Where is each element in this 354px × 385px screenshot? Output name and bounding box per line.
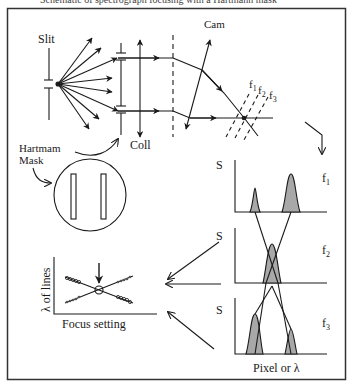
panel-f2 (235, 228, 327, 283)
slit (44, 48, 53, 120)
panel-label-f1: f1 (322, 171, 330, 187)
signal-axis-label-f2: S (216, 229, 223, 243)
hartmann-label-line2: Mask (19, 154, 44, 166)
mask-hole-right (101, 174, 106, 219)
panel-label-f2: f2 (322, 243, 330, 259)
focus-plot-ylabel: λ of lines (39, 267, 53, 312)
panel-label-f3: f3 (322, 316, 330, 332)
focus-plot-xlabel: Focus setting (62, 317, 126, 331)
optics-schematic (44, 35, 322, 154)
focus-plot (54, 257, 157, 314)
x-axis-label: Pixel or λ (253, 361, 300, 375)
coll-label: Coll (130, 138, 151, 152)
cam-label: Cam (204, 18, 225, 30)
signal-axis-label-f3: S (216, 303, 223, 317)
ray-fan (58, 38, 118, 129)
mask-hole-left (71, 174, 76, 219)
panel-to-plot-arrows (166, 242, 221, 349)
spectrograph-diagram: Slit Cam Coll f1 f2 f3 Hartmam Mask (0, 0, 354, 385)
f2-plane-label: f2 (258, 84, 266, 99)
f3-plane-label: f3 (269, 89, 277, 104)
signal-axis-label-f1: S (216, 158, 223, 172)
camera-lens (186, 40, 210, 129)
peak-f1-right (282, 174, 300, 212)
focal-planes (226, 94, 268, 140)
curved-pointer-to-mask (33, 168, 51, 183)
panel-f1 (235, 160, 327, 212)
peak-f1-left (250, 188, 260, 212)
slit-label: Slit (38, 32, 55, 46)
spectra-panels (235, 160, 327, 354)
flow-arrow (305, 122, 322, 154)
curved-pointer-to-mask-edge (75, 139, 118, 155)
hartmann-mask-edge (116, 43, 126, 135)
f1-plane-label: f1 (249, 78, 257, 93)
hartmann-label-line1: Hartmam (19, 142, 61, 154)
